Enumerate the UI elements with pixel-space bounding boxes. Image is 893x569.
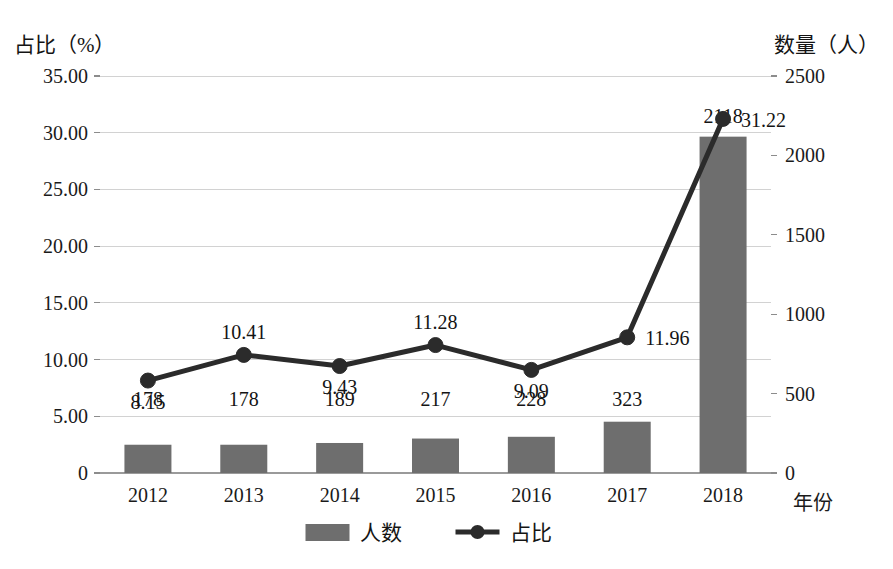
right-axis-title: 数量（人） — [774, 33, 879, 57]
left-axis-tick-label: 20.00 — [43, 235, 88, 257]
line-marker — [620, 330, 635, 345]
line-marker — [524, 362, 539, 377]
x-tick-label: 2012 — [128, 484, 168, 506]
line-value-label: 11.96 — [645, 327, 689, 349]
x-tick-label: 2018 — [703, 484, 743, 506]
right-axis-tick-label: 500 — [785, 383, 815, 405]
line-value-label: 9.43 — [322, 376, 357, 398]
bar — [220, 445, 267, 473]
bar — [412, 439, 459, 473]
line-marker — [332, 359, 347, 374]
bar — [604, 422, 651, 473]
gridlines — [100, 76, 771, 473]
left-axis-title: 占比（%） — [14, 33, 116, 57]
bar — [508, 437, 555, 473]
line-marker — [236, 347, 251, 362]
bar-value-label: 178 — [229, 388, 259, 410]
legend-swatch-bar — [306, 524, 350, 541]
left-axis-tick-label: 15.00 — [43, 292, 88, 314]
left-axis-tick-label: 5.00 — [53, 405, 88, 427]
line-marker — [428, 338, 443, 353]
line-series-占比 — [140, 111, 730, 388]
x-tick-label: 2015 — [416, 484, 456, 506]
line-value-label: 10.41 — [221, 321, 266, 343]
left-axis: 05.0010.0015.0020.0025.0030.0035.00 — [43, 65, 100, 484]
right-axis-tick-label: 2000 — [785, 144, 825, 166]
x-tick-label: 2017 — [607, 484, 647, 506]
line-value-label: 11.28 — [413, 311, 457, 333]
legend-marker-dot — [471, 525, 485, 539]
line-value-label: 8.15 — [130, 391, 165, 413]
right-axis-tick-label: 2500 — [785, 65, 825, 87]
left-axis-tick-label: 0 — [78, 462, 88, 484]
line-value-label: 31.22 — [741, 109, 786, 131]
x-tick-label: 2013 — [224, 484, 264, 506]
bar-value-label: 217 — [421, 388, 451, 410]
bar-value-label: 323 — [612, 388, 642, 410]
bar-value-labels: 1781781892172283232118 — [133, 105, 743, 411]
line-value-label: 9.09 — [514, 380, 549, 402]
bar — [124, 445, 171, 473]
left-axis-tick-label: 35.00 — [43, 65, 88, 87]
chart-legend: 人数占比 — [306, 521, 552, 545]
x-axis-title: 年份 — [793, 492, 833, 514]
bar-series-人数 — [124, 137, 746, 473]
left-axis-tick-label: 30.00 — [43, 122, 88, 144]
dual-axis-combo-chart: 占比（%） 数量（人） 05.0010.0015.0020.0025.0030.… — [0, 0, 893, 569]
x-axis-tick-labels: 2012201320142015201620172018 — [128, 484, 743, 506]
legend-label: 占比 — [510, 521, 552, 545]
left-axis-tick-label: 25.00 — [43, 178, 88, 200]
right-axis-tick-label: 0 — [785, 462, 795, 484]
bar — [700, 137, 747, 473]
legend-label: 人数 — [360, 521, 402, 545]
chart-container: 占比（%） 数量（人） 05.0010.0015.0020.0025.0030.… — [0, 0, 893, 569]
left-axis-tick-label: 10.00 — [43, 349, 88, 371]
x-tick-label: 2016 — [511, 484, 551, 506]
line-marker — [716, 111, 731, 126]
line-marker — [140, 373, 155, 388]
bar — [316, 443, 363, 473]
x-tick-label: 2014 — [320, 484, 360, 506]
right-axis-tick-label: 1500 — [785, 224, 825, 246]
right-axis-tick-label: 1000 — [785, 303, 825, 325]
line-value-labels: 8.1510.419.4311.289.0911.9631.22 — [130, 109, 786, 413]
